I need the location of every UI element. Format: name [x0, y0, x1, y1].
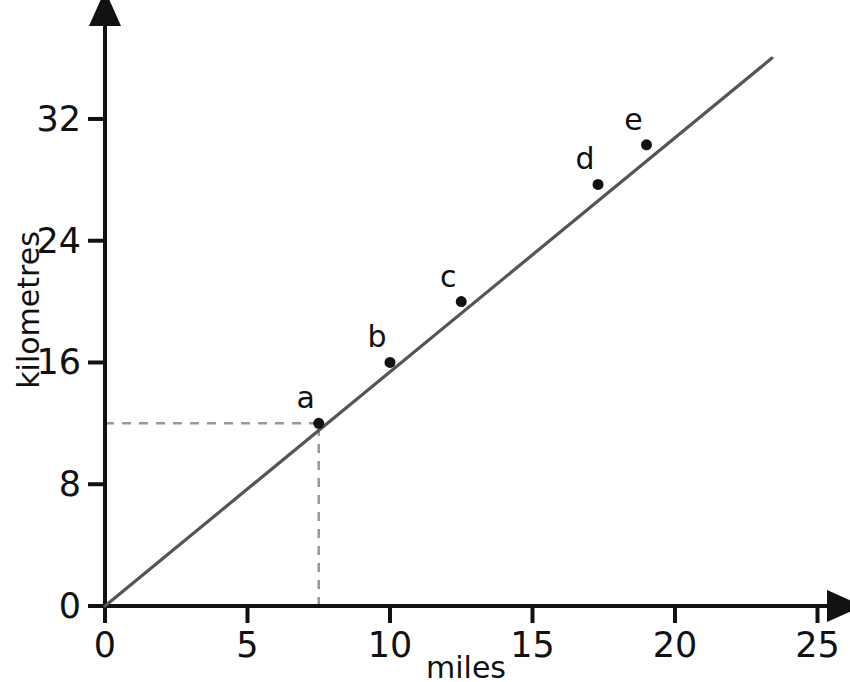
- data-points-group: [313, 139, 652, 429]
- point-label-c: c: [440, 259, 457, 294]
- x-tick-label-15: 15: [510, 628, 555, 663]
- data-point-c[interactable]: [456, 296, 467, 307]
- conversion-line: [105, 58, 772, 606]
- point-label-e: e: [624, 102, 642, 137]
- x-tick-label-25: 25: [795, 628, 840, 663]
- x-tick-label-5: 5: [236, 628, 258, 663]
- point-label-b: b: [367, 319, 386, 354]
- point-label-a: a: [297, 380, 315, 415]
- x-axis-title: miles: [426, 650, 506, 682]
- plot-canvas: [0, 0, 850, 682]
- y-tick-label-0: 0: [59, 589, 81, 624]
- y-axis-title: kilometres: [11, 231, 46, 389]
- y-tick-label-32: 32: [36, 101, 81, 136]
- y-tick-label-8: 8: [59, 467, 81, 502]
- data-point-b[interactable]: [385, 357, 396, 368]
- axis-ticks-group: [88, 119, 818, 623]
- data-point-e[interactable]: [641, 139, 652, 150]
- conversion-graph: 051015202508162432mileskilometresabcde: [0, 0, 850, 682]
- x-tick-label-0: 0: [94, 628, 116, 663]
- x-tick-label-20: 20: [653, 628, 698, 663]
- data-point-a[interactable]: [313, 418, 324, 429]
- point-label-d: d: [576, 141, 595, 176]
- x-tick-label-10: 10: [368, 628, 413, 663]
- conversion-line-path: [105, 58, 772, 606]
- data-point-d[interactable]: [593, 179, 604, 190]
